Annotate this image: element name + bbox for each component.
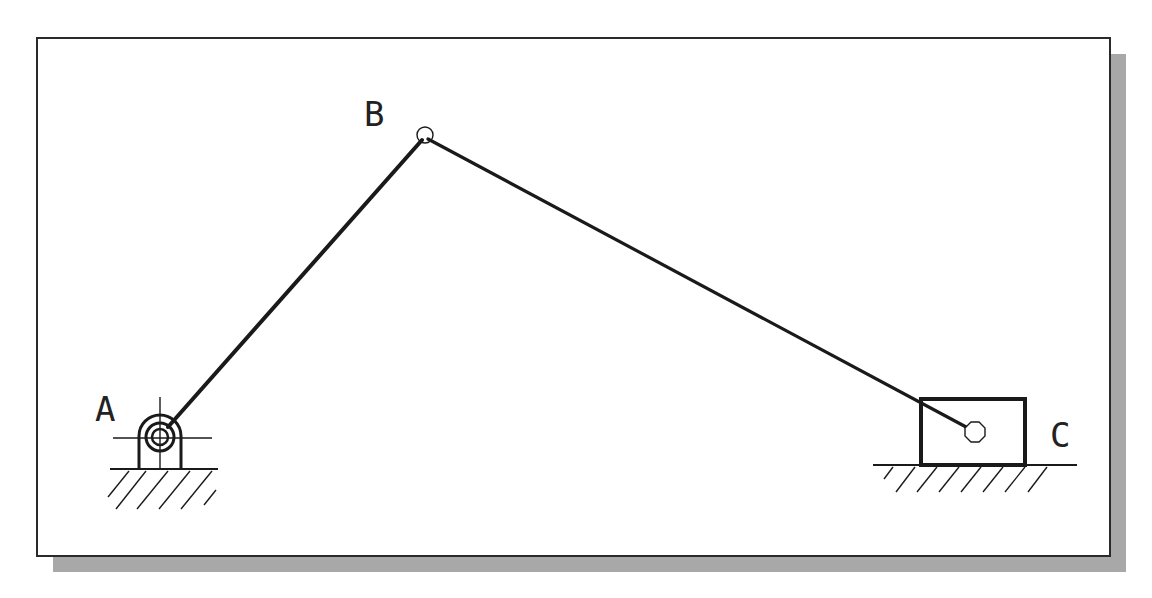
joint-c-pin (965, 422, 985, 442)
mechanism-diagram: A B C (0, 0, 1152, 598)
frame (37, 38, 1110, 556)
label-a: A (95, 389, 115, 429)
label-c: C (1050, 415, 1070, 455)
label-b: B (364, 94, 384, 134)
